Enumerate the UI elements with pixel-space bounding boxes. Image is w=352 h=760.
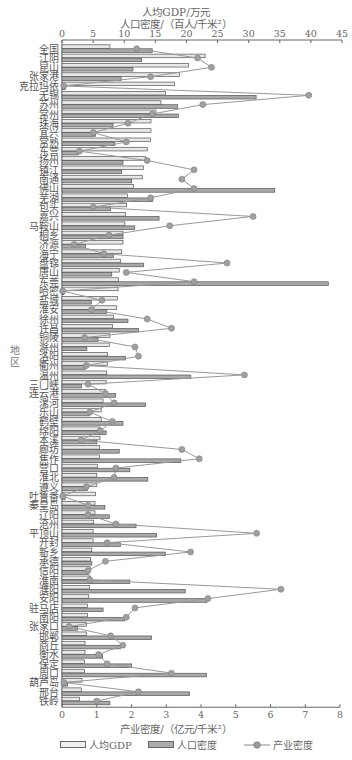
industry-density-point [102,391,108,397]
bar-population-density [62,375,191,379]
bar-gdp [62,63,188,67]
bar-gdp [62,641,85,645]
industry-density-point [179,446,185,452]
industry-density-point [85,568,91,574]
industry-density-point [111,474,117,480]
bar-population-density [62,561,92,565]
top-axis-tick-label: 20 [180,28,192,39]
bottom-axis-tick-label: 2 [128,709,134,720]
industry-density-point [191,186,197,192]
bar-gdp [62,175,142,179]
bar-gdp [62,185,134,189]
industry-density-point [106,232,112,238]
bar-population-density [62,114,178,118]
bar-population-density [62,636,152,640]
legend-label-gdp: 人均GDP [89,737,132,752]
industry-density-point [94,698,100,704]
chart-row: 安阳 [39,592,207,604]
legend-swatch-white-bar [60,741,86,748]
bar-gdp [62,539,93,543]
bar-population-density [62,468,130,472]
bar-gdp [62,45,110,49]
legend-swatch-gray-bar [148,741,174,748]
chart-row: 东莞 [39,276,328,288]
industry-density-point [135,689,141,695]
chart-row: 常州 [39,108,178,120]
bar-gdp [62,604,88,608]
bar-population-density [62,459,181,463]
industry-density-point [87,577,93,583]
industry-density-point [60,493,66,499]
top-axis-tick-label: 10 [118,28,130,39]
industry-density-point [144,316,150,322]
bar-gdp [62,474,97,478]
industry-density-point [148,74,154,80]
industry-density-point [148,195,154,201]
bar-gdp [62,324,112,328]
top-axis-tick-label: 5 [90,28,96,39]
bar-gdp [62,697,79,701]
bar-population-density [62,319,128,323]
bar-population-density [62,77,121,81]
chart-row: 苏州 [39,98,178,110]
industry-density-point [168,325,174,331]
bar-gdp [62,147,147,151]
bar-gdp [62,352,107,356]
industry-density-point [83,363,89,369]
top-axis-tick-label: 40 [305,28,317,39]
bottom-axis-title: 产业密度/（亿元/千米²） [0,721,352,736]
bar-population-density [62,170,122,174]
industry-density-point [224,260,230,266]
industry-density-point [97,428,103,434]
bar-population-density [62,226,135,230]
chart-row: 江阴 [39,53,205,64]
bar-gdp [62,688,81,692]
bar-population-density [62,179,132,183]
bar-population-density [62,142,115,146]
category-label: 铁岭 [39,695,59,707]
industry-density-point [78,437,84,443]
industry-density-point [102,558,108,564]
bar-gdp [62,455,99,459]
bar-population-density [62,105,178,109]
bar-population-density [62,403,145,407]
bar-population-density [62,300,91,304]
bar-population-density [62,505,105,509]
industry-density-point [278,586,284,592]
industry-density-point [208,64,214,70]
bar-population-density [62,450,119,454]
legend-label-industry: 产业密度 [273,737,313,752]
industry-density-point [205,596,211,602]
industry-density-point [111,400,117,406]
legend-line-marker-icon [244,740,270,750]
industry-density-point [195,55,201,61]
bar-gdp [62,259,120,263]
bar-gdp [62,399,103,403]
top-axis-tick-label: 45 [336,28,348,39]
chart-row: 濮阳 [39,583,185,595]
bar-gdp [62,651,85,655]
legend-item-gdp: 人均GDP [60,737,132,752]
bar-population-density [62,161,123,165]
bottom-axis-tick-label: 0 [59,709,65,720]
industry-density-point [149,111,155,117]
legend-item-industry: 产业密度 [244,737,313,752]
bottom-axis-tick-label: 7 [302,709,308,720]
industry-density-point [191,167,197,173]
legend-item-pop: 人口密度 [148,737,217,752]
bar-gdp [62,110,156,114]
bottom-axis-tick-label: 8 [337,709,343,720]
bar-gdp [62,194,127,198]
bar-gdp [62,278,119,282]
bar-gdp [62,632,86,636]
bar-gdp [62,91,165,95]
bar-population-density [62,347,87,351]
bottom-axis-tick-label: 6 [267,709,273,720]
bar-gdp [62,548,92,552]
industry-density-point [200,102,206,108]
bar-population-density [62,412,89,416]
bar-population-density [62,552,165,556]
bar-population-density [62,328,139,332]
bar-gdp [62,427,100,431]
bar-gdp [62,138,150,142]
